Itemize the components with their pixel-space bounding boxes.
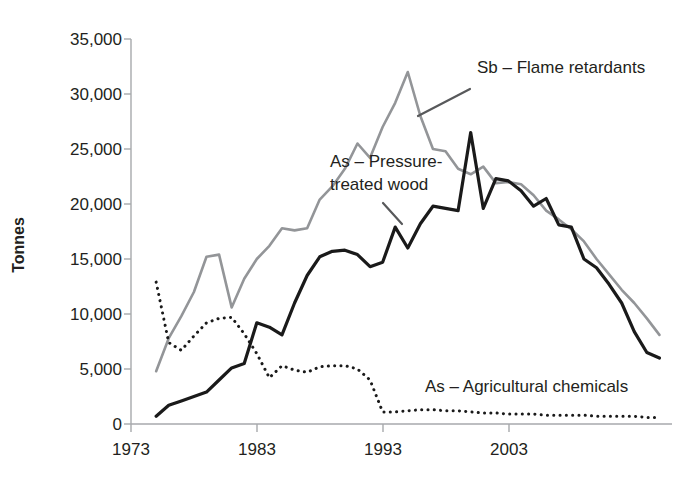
y-tick-label: 25,000 (70, 140, 122, 159)
y-tick-label: 5,000 (79, 360, 122, 379)
annotation-as-agricultural-chemicals: As – Agricultural chemicals (425, 377, 628, 396)
leader-line-pressure-treated-wood (383, 203, 402, 224)
y-axis-ticks (124, 39, 131, 424)
annotation-pressure-treated-wood-line2: treated wood (330, 175, 428, 194)
x-axis-tick-labels: 1973 1983 1993 2003 (112, 440, 528, 459)
series-line-sb-flame-retardants (156, 72, 659, 371)
y-axis-tick-labels: 35,000 30,000 25,000 20,000 15,000 10,00… (70, 30, 122, 434)
x-axis-ticks (131, 424, 509, 432)
x-tick-label: 1993 (364, 440, 402, 459)
chart-container: Tonnes 35,000 30,000 25,000 20,000 15,00… (0, 0, 690, 479)
y-tick-label: 20,000 (70, 195, 122, 214)
leader-line-sb (418, 89, 470, 116)
y-tick-label: 0 (113, 415, 122, 434)
y-tick-label: 35,000 (70, 30, 122, 49)
y-axis-title: Tonnes (10, 217, 27, 273)
y-tick-label: 10,000 (70, 305, 122, 324)
y-tick-label: 15,000 (70, 250, 122, 269)
annotation-pressure-treated-wood-line1: As – Pressure- (330, 152, 442, 171)
x-tick-label: 1973 (112, 440, 150, 459)
line-chart: Tonnes 35,000 30,000 25,000 20,000 15,00… (0, 0, 690, 479)
x-tick-label: 2003 (490, 440, 528, 459)
x-tick-label: 1983 (238, 440, 276, 459)
annotation-sb-flame-retardants: Sb – Flame retardants (477, 58, 645, 77)
y-tick-label: 30,000 (70, 85, 122, 104)
